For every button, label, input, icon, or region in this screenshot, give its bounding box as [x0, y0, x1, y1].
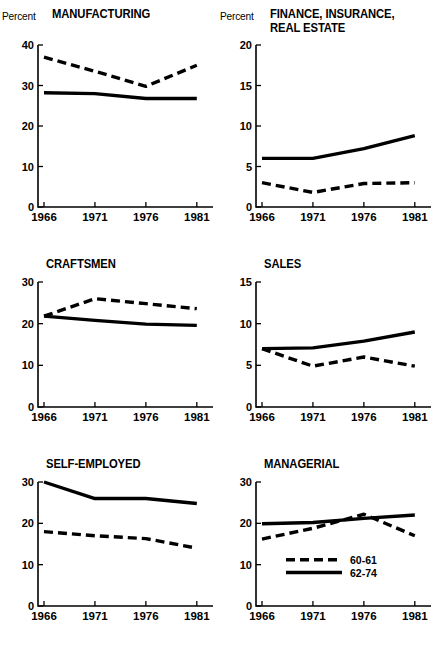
legend-dashed-label: 60-61: [350, 554, 377, 566]
y-tick-label: 20: [240, 517, 252, 529]
series-line-60-61: [44, 57, 197, 86]
y-tick-label: 30: [240, 476, 252, 488]
y-tick-label: 10: [240, 559, 252, 571]
y-tick-label: 30: [22, 476, 34, 488]
chart-panel: CRAFTSMEN01020301966197119761981: [0, 250, 218, 450]
x-tick-label: 1976: [133, 610, 159, 622]
plot-area: 0102030401966197119761981: [0, 0, 218, 250]
chart-panel: PercentMANUFACTURING01020304019661971197…: [0, 0, 218, 250]
plot-area: 0102030196619711976198160-6162-74: [218, 450, 435, 649]
x-tick-label: 1971: [82, 610, 108, 622]
y-tick-label: 15: [240, 276, 252, 288]
y-tick-label: 40: [22, 39, 34, 51]
y-tick-label: 5: [246, 359, 252, 371]
x-tick-label: 1971: [82, 411, 108, 423]
axis-lines: [38, 482, 213, 606]
axis-lines: [38, 45, 213, 207]
plot-area: 0510151966197119761981: [218, 250, 435, 450]
x-tick-label: 1976: [351, 610, 377, 622]
chart-panel: PercentFINANCE, INSURANCE, REAL ESTATE05…: [218, 0, 435, 250]
x-tick-label: 1981: [184, 411, 210, 423]
x-tick-label: 1966: [31, 211, 57, 223]
x-tick-label: 1971: [82, 211, 108, 223]
x-tick-label: 1976: [351, 211, 377, 223]
series-line-62-74: [44, 316, 197, 325]
x-tick-label: 1966: [249, 411, 275, 423]
plot-area: 051015201966197119761981: [218, 0, 435, 250]
y-tick-label: 20: [22, 120, 34, 132]
y-tick-label: 10: [240, 120, 252, 132]
chart-panel: MANAGERIAL0102030196619711976198160-6162…: [218, 450, 435, 649]
series-line-62-74: [44, 93, 197, 99]
x-tick-label: 1976: [351, 411, 377, 423]
x-tick-label: 1971: [300, 411, 326, 423]
series-line-62-74: [262, 332, 415, 349]
x-tick-label: 1976: [133, 411, 159, 423]
y-tick-label: 10: [22, 559, 34, 571]
x-tick-label: 1966: [31, 411, 57, 423]
y-tick-label: 20: [240, 39, 252, 51]
y-tick-label: 10: [22, 161, 34, 173]
chart-panel: SALES0510151966197119761981: [218, 250, 435, 450]
chart-panel: SELF-EMPLOYED01020301966197119761981: [0, 450, 218, 649]
x-tick-label: 1981: [184, 610, 210, 622]
series-line-62-74: [44, 482, 197, 503]
x-tick-label: 1981: [184, 211, 210, 223]
x-tick-label: 1976: [133, 211, 159, 223]
series-line-60-61: [44, 299, 197, 317]
x-tick-label: 1981: [402, 610, 428, 622]
x-tick-label: 1971: [300, 211, 326, 223]
y-tick-label: 10: [22, 359, 34, 371]
axis-lines: [256, 482, 431, 606]
x-tick-label: 1966: [249, 211, 275, 223]
series-line-62-74: [262, 136, 415, 159]
series-line-60-61: [262, 183, 415, 193]
series-line-60-61: [44, 532, 197, 549]
y-tick-label: 5: [246, 161, 252, 173]
y-tick-label: 15: [240, 80, 252, 92]
y-tick-label: 20: [22, 517, 34, 529]
x-tick-label: 1981: [402, 411, 428, 423]
chart-grid: PercentMANUFACTURING01020304019661971197…: [0, 0, 435, 649]
plot-area: 01020301966197119761981: [0, 250, 218, 450]
series-line-60-61: [262, 349, 415, 367]
x-tick-label: 1971: [300, 610, 326, 622]
y-tick-label: 30: [22, 80, 34, 92]
x-tick-label: 1966: [249, 610, 275, 622]
y-tick-label: 20: [22, 318, 34, 330]
plot-area: 01020301966197119761981: [0, 450, 218, 649]
y-tick-label: 30: [22, 276, 34, 288]
legend-solid-label: 62-74: [350, 567, 377, 579]
y-tick-label: 10: [240, 318, 252, 330]
x-tick-label: 1966: [31, 610, 57, 622]
x-tick-label: 1981: [402, 211, 428, 223]
